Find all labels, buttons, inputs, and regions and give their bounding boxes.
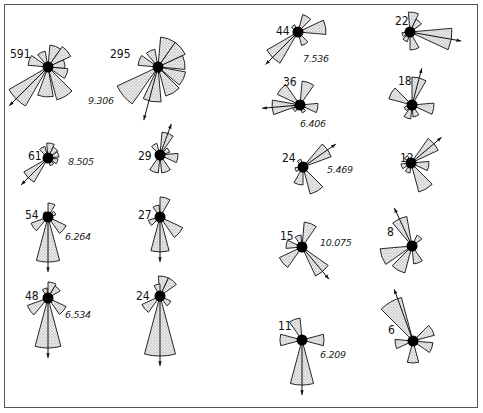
arrowhead-icon xyxy=(456,39,461,42)
rose-center-dot xyxy=(295,100,306,111)
rose-center-dot xyxy=(43,153,54,164)
rose-diagram: 447.536 xyxy=(266,15,329,65)
arrowhead-icon xyxy=(158,257,161,262)
statistic-value-label: 6.406 xyxy=(300,118,326,129)
rose-diagram: 546.264 xyxy=(25,203,91,272)
rose-center-dot xyxy=(155,291,166,302)
sample-count-label: 48 xyxy=(25,289,39,303)
sample-count-label: 54 xyxy=(25,208,39,222)
rose-diagram: 29 xyxy=(138,124,178,173)
arrowhead-icon xyxy=(300,390,303,395)
arrowhead-icon xyxy=(158,361,161,366)
rose-diagram: 5919.306 xyxy=(9,45,114,106)
rose-diagram: 27 xyxy=(138,197,183,262)
rose-diagram: 486.534 xyxy=(25,282,91,358)
arrowhead-icon xyxy=(168,124,171,129)
sample-count-label: 591 xyxy=(10,47,31,61)
sample-count-label: 61 xyxy=(28,149,42,163)
sample-count-label: 24 xyxy=(282,151,296,165)
sample-count-label: 24 xyxy=(136,289,150,303)
rose-center-dot xyxy=(408,336,419,347)
sample-count-label: 11 xyxy=(278,319,292,333)
statistic-value-label: 6.264 xyxy=(65,231,91,242)
statistic-value-label: 8.505 xyxy=(68,156,94,167)
arrowhead-icon xyxy=(394,208,398,213)
sample-count-label: 22 xyxy=(395,14,409,28)
rose-center-dot xyxy=(407,100,418,111)
sample-count-label: 295 xyxy=(110,47,131,61)
arrowhead-icon xyxy=(46,267,49,272)
arrowhead-icon xyxy=(46,353,49,358)
rose-center-dot xyxy=(43,293,54,304)
rose-center-dot xyxy=(155,212,166,223)
rose-center-dot xyxy=(297,242,308,253)
rose-diagram: 6 xyxy=(381,289,434,363)
statistic-value-label: 6.209 xyxy=(320,349,346,360)
sample-count-label: 12 xyxy=(400,151,414,165)
rose-diagram: 22 xyxy=(395,12,461,50)
rose-diagram: 618.505 xyxy=(21,143,94,185)
rose-center-dot xyxy=(405,27,416,38)
rose-center-dot xyxy=(153,62,164,73)
sample-count-label: 36 xyxy=(283,75,297,89)
sample-count-label: 6 xyxy=(388,323,395,337)
rose-center-dot xyxy=(155,150,166,161)
statistic-value-label: 9.306 xyxy=(88,95,114,106)
arrowhead-icon xyxy=(394,289,397,294)
sample-count-label: 15 xyxy=(280,229,294,243)
rose-diagram: 245.469 xyxy=(282,144,353,194)
rose-diagrams: 5919.306295618.50529546.26427486.5342444… xyxy=(9,12,461,395)
rose-diagram-canvas: 5919.306295618.50529546.26427486.5342444… xyxy=(0,0,483,413)
rose-center-dot xyxy=(297,335,308,346)
statistic-value-label: 5.469 xyxy=(327,164,353,175)
sample-count-label: 27 xyxy=(138,208,152,222)
statistic-value-label: 7.536 xyxy=(303,53,329,64)
rose-center-dot xyxy=(43,62,54,73)
statistic-value-label: 6.534 xyxy=(65,309,91,320)
rose-center-dot xyxy=(43,212,54,223)
rose-diagram: 295 xyxy=(110,37,186,120)
sample-count-label: 44 xyxy=(276,24,290,38)
sample-count-label: 8 xyxy=(387,225,394,239)
arrowhead-icon xyxy=(143,115,146,120)
statistic-value-label: 10.075 xyxy=(320,237,352,248)
rose-diagram: 366.406 xyxy=(262,75,326,129)
arrowhead-icon xyxy=(419,68,422,73)
rose-petal xyxy=(381,298,413,342)
rose-center-dot xyxy=(407,241,418,252)
rose-diagram: 1510.075 xyxy=(279,222,351,279)
rose-center-dot xyxy=(298,162,309,173)
rose-diagram: 18 xyxy=(389,68,434,119)
rose-diagram: 12 xyxy=(400,137,442,192)
rose-diagram: 116.209 xyxy=(278,318,346,395)
rose-diagram: 8 xyxy=(380,208,422,273)
sample-count-label: 18 xyxy=(398,74,412,88)
rose-center-dot xyxy=(293,27,304,38)
rose-diagram: 24 xyxy=(136,276,176,366)
sample-count-label: 29 xyxy=(138,149,152,163)
